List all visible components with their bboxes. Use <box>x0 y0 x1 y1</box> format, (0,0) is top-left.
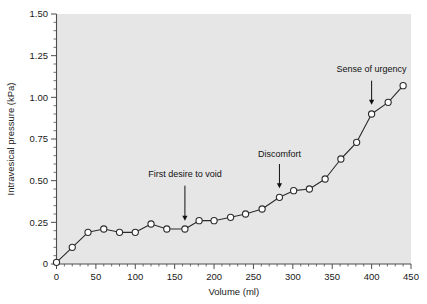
y-axis-title: Intravesical pressure (kPa) <box>5 83 16 196</box>
chart-canvas: 00.250.500.751.001.251.50050100150200250… <box>0 0 427 304</box>
x-axis-tick-label: 400 <box>364 271 380 282</box>
data-point-marker <box>369 111 375 117</box>
y-axis-tick-label: 1.25 <box>30 50 49 61</box>
data-point-marker <box>85 229 91 235</box>
data-point-marker <box>116 229 122 235</box>
annotation-label-sense-of-urgency: Sense of urgency <box>337 64 408 74</box>
x-axis-tick-label: 350 <box>324 271 340 282</box>
data-point-marker <box>276 194 282 200</box>
x-axis-tick-label: 0 <box>54 271 59 282</box>
data-point-marker <box>164 226 170 232</box>
data-point-marker <box>211 218 217 224</box>
data-point-marker <box>291 188 297 194</box>
data-point-marker <box>148 221 154 227</box>
x-axis-tick-label: 200 <box>206 271 222 282</box>
x-axis-tick-label: 100 <box>127 271 143 282</box>
data-point-marker <box>196 218 202 224</box>
y-axis-tick-label: 0.25 <box>30 217 49 228</box>
data-point-marker <box>182 226 188 232</box>
data-point-marker <box>338 156 344 162</box>
data-point-marker <box>306 186 312 192</box>
cystometrogram-chart: 00.250.500.751.001.251.50050100150200250… <box>0 0 427 304</box>
annotation-label-discomfort: Discomfort <box>258 149 302 159</box>
x-axis-tick-label: 450 <box>403 271 419 282</box>
data-point-marker <box>322 176 328 182</box>
data-point-marker <box>228 214 234 220</box>
data-point-marker <box>132 229 138 235</box>
y-axis-tick-label: 0 <box>43 258 48 269</box>
data-point-marker <box>69 244 75 250</box>
x-axis-tick-label: 250 <box>246 271 262 282</box>
y-axis-tick-label: 1.50 <box>30 8 49 19</box>
data-point-marker <box>259 206 265 212</box>
annotation-label-first-desire-to-void: First desire to void <box>148 169 222 179</box>
x-axis-tick-label: 50 <box>91 271 102 282</box>
y-axis-tick-label: 0.75 <box>30 133 49 144</box>
x-axis-tick-label: 300 <box>285 271 301 282</box>
data-point-marker <box>385 99 391 105</box>
x-axis-tick-label: 150 <box>167 271 183 282</box>
y-axis-tick-label: 0.50 <box>30 175 49 186</box>
data-point-marker <box>101 226 107 232</box>
data-point-marker <box>400 83 406 89</box>
x-axis-title: Volume (ml) <box>208 286 259 297</box>
data-point-marker <box>53 259 59 265</box>
data-point-marker <box>354 139 360 145</box>
data-point-marker <box>242 211 248 217</box>
y-axis-tick-label: 1.00 <box>30 92 49 103</box>
